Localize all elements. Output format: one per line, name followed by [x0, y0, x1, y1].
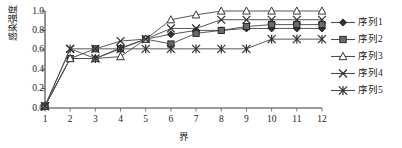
x-axis-tick-label: 3 [85, 114, 105, 124]
legend-label-3: 序列3 [356, 51, 383, 62]
x-axis-tick-label: 12 [312, 114, 332, 124]
legend-item-4[interactable]: 序列4 [330, 65, 402, 82]
x-axis-tick-label: 7 [186, 114, 206, 124]
x-axis-tick-label: 9 [236, 114, 256, 124]
legend-item-3[interactable]: 序列3 [330, 48, 402, 65]
legend-label-1: 序列1 [356, 17, 383, 28]
x-axis-tick-label: 6 [161, 114, 181, 124]
x-axis-tick-label: 2 [60, 114, 80, 124]
legend-marker-triangle-icon [330, 48, 356, 65]
data-point-diamond [339, 19, 346, 26]
chart-figure: 感染强度 0.00.20.40.60.81.0 123456789101112界… [0, 0, 402, 148]
legend-item-1[interactable]: 序列1 [330, 14, 402, 31]
data-point-square [340, 36, 346, 42]
legend-marker-square-icon [330, 31, 356, 48]
legend-marker-asterisk-icon [330, 82, 356, 99]
x-axis-tick-label: 10 [262, 114, 282, 124]
x-axis-tick-label: 5 [136, 114, 156, 124]
legend-label-5: 序列5 [356, 85, 383, 96]
x-axis-tick-label: 11 [287, 114, 307, 124]
x-axis-tick-label: 1 [35, 114, 55, 124]
legend-marker-diamond-icon [330, 14, 356, 31]
x-axis-title: 界 [164, 129, 204, 143]
chart-legend: 序列1序列2序列3序列4序列5 [330, 14, 402, 99]
x-axis-tick-label: 4 [111, 114, 131, 124]
legend-marker-x-icon [330, 65, 356, 82]
legend-label-2: 序列2 [356, 34, 383, 45]
legend-item-2[interactable]: 序列2 [330, 31, 402, 48]
legend-label-4: 序列4 [356, 68, 383, 79]
legend-item-5[interactable]: 序列5 [330, 82, 402, 99]
x-axis-tick-label: 8 [211, 114, 231, 124]
